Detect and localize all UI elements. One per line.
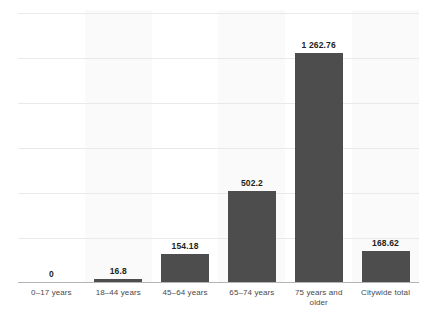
bar-value-label: 16.8 (110, 266, 127, 276)
x-axis-label-0: 0–17 years (18, 288, 85, 308)
bar-value-label: 502.2 (241, 178, 263, 188)
bar-slot: 168.62 (352, 10, 419, 282)
x-axis-label-3: 65–74 years (218, 288, 285, 308)
bar-value-label: 168.62 (372, 238, 399, 248)
x-axis-label-4: 75 years andolder (285, 288, 352, 308)
x-axis-labels: 0–17 years 18–44 years 45–64 years 65–74… (18, 288, 419, 308)
x-axis-line (18, 282, 419, 283)
bar-chart: 0 16.8 154.18 502.2 1 262.76 168.62 (0, 0, 437, 318)
bar-value-label: 154.18 (172, 241, 199, 251)
bar[interactable] (295, 53, 343, 282)
bar-series: 0 16.8 154.18 502.2 1 262.76 168.62 (18, 10, 419, 282)
x-axis-label-1: 18–44 years (85, 288, 152, 308)
bar-slot: 154.18 (152, 10, 219, 282)
bar[interactable] (362, 251, 410, 282)
x-axis-label-2: 45–64 years (152, 288, 219, 308)
bar[interactable] (161, 254, 209, 282)
plot-area: 0 16.8 154.18 502.2 1 262.76 168.62 (18, 10, 419, 282)
bar[interactable] (228, 191, 276, 282)
bar-value-label: 1 262.76 (302, 40, 336, 50)
bar-slot: 1 262.76 (285, 10, 352, 282)
bar-slot: 0 (18, 10, 85, 282)
bar-value-label: 0 (49, 269, 54, 279)
bar-slot: 16.8 (85, 10, 152, 282)
x-axis-label-5: Citywide total (352, 288, 419, 308)
bar-slot: 502.2 (218, 10, 285, 282)
